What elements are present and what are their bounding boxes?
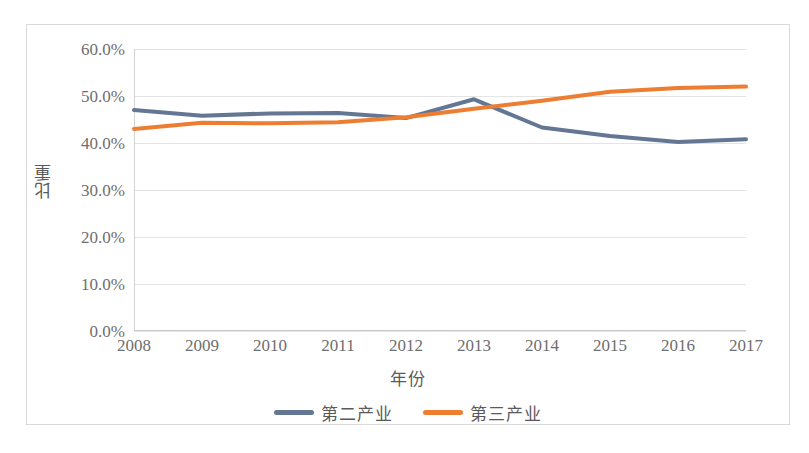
x-axis-tick-label: 2015	[593, 337, 627, 354]
legend-label: 第二产业	[321, 400, 393, 425]
chart-container: 比重 0.0%10.0%20.0%30.0%40.0%50.0%60.0% 20…	[26, 24, 790, 425]
legend-swatch-icon	[274, 410, 314, 415]
y-axis-tick-label: 50.0%	[81, 88, 125, 105]
x-axis-tick-label: 2011	[321, 337, 354, 354]
y-axis-tick-label: 60.0%	[81, 41, 125, 58]
x-axis-tick-label: 2017	[729, 337, 763, 354]
x-axis-tick-label: 2012	[389, 337, 423, 354]
y-axis-tick-label: 30.0%	[81, 182, 125, 199]
x-axis-tick-labels: 2008200920102011201220132014201520162017	[134, 337, 746, 361]
x-axis-title: 年份	[27, 365, 789, 390]
series-lines	[134, 49, 746, 331]
x-axis-tick-label: 2014	[525, 337, 559, 354]
gridline	[134, 331, 746, 332]
chart-legend: 第二产业第三产业	[27, 400, 789, 425]
x-axis-tick-label: 2010	[253, 337, 287, 354]
plot-area	[134, 49, 746, 331]
series-line	[134, 99, 746, 142]
legend-label: 第三产业	[470, 400, 542, 425]
legend-item[interactable]: 第二产业	[274, 400, 393, 425]
y-axis-tick-label: 10.0%	[81, 276, 125, 293]
legend-swatch-icon	[423, 410, 463, 415]
y-axis-tick-label: 40.0%	[81, 135, 125, 152]
x-axis-tick-label: 2008	[117, 337, 151, 354]
x-axis-tick-label: 2009	[185, 337, 219, 354]
y-axis-tick-label: 20.0%	[81, 229, 125, 246]
legend-item[interactable]: 第三产业	[423, 400, 542, 425]
x-axis-tick-label: 2016	[661, 337, 695, 354]
x-axis-tick-label: 2013	[457, 337, 491, 354]
